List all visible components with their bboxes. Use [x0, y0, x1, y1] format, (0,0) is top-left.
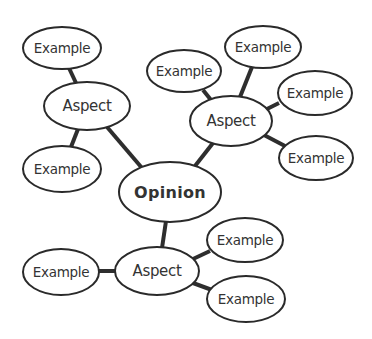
example-label: Example	[235, 39, 291, 55]
node-aspect-right: Aspect	[190, 96, 272, 146]
edge-aspect-bottom-example-8	[193, 251, 210, 259]
node-example-8: Example	[207, 218, 283, 262]
node-aspect-bottom: Aspect	[115, 247, 199, 295]
edge-opinion-aspect-left	[107, 127, 142, 168]
node-example-1: Example	[23, 27, 101, 69]
node-example-9: Example	[207, 276, 285, 322]
edge-aspect-right-example-5	[267, 103, 279, 109]
edge-aspect-right-example-6	[264, 135, 285, 146]
example-label: Example	[34, 40, 90, 56]
edge-aspect-bottom-example-9	[193, 283, 212, 290]
opinion-label: Opinion	[134, 183, 206, 202]
example-label: Example	[217, 232, 273, 248]
node-example-2: Example	[23, 146, 101, 192]
node-example-3: Example	[147, 50, 221, 92]
aspect-label: Aspect	[132, 262, 182, 280]
edge-opinion-aspect-right	[195, 143, 213, 166]
aspect-label: Aspect	[206, 112, 256, 130]
node-opinion: Opinion	[119, 162, 221, 222]
example-label: Example	[33, 264, 89, 280]
node-example-7: Example	[23, 249, 99, 295]
node-aspect-left: Aspect	[44, 82, 130, 130]
edge-aspect-right-example-4	[240, 67, 252, 97]
edge-aspect-left-example-1	[69, 68, 76, 83]
example-label: Example	[288, 150, 344, 166]
edge-aspect-left-example-2	[71, 129, 78, 147]
node-example-5: Example	[278, 71, 352, 115]
node-example-4: Example	[225, 26, 301, 68]
example-label: Example	[34, 161, 90, 177]
example-label: Example	[156, 63, 212, 79]
example-label: Example	[218, 291, 274, 307]
edge-opinion-aspect-bottom	[162, 221, 166, 248]
opinion-mind-map: Opinion Aspect Aspect Aspect Example Exa…	[0, 0, 372, 339]
example-label: Example	[287, 85, 343, 101]
node-example-6: Example	[279, 136, 353, 180]
aspect-label: Aspect	[62, 97, 112, 115]
